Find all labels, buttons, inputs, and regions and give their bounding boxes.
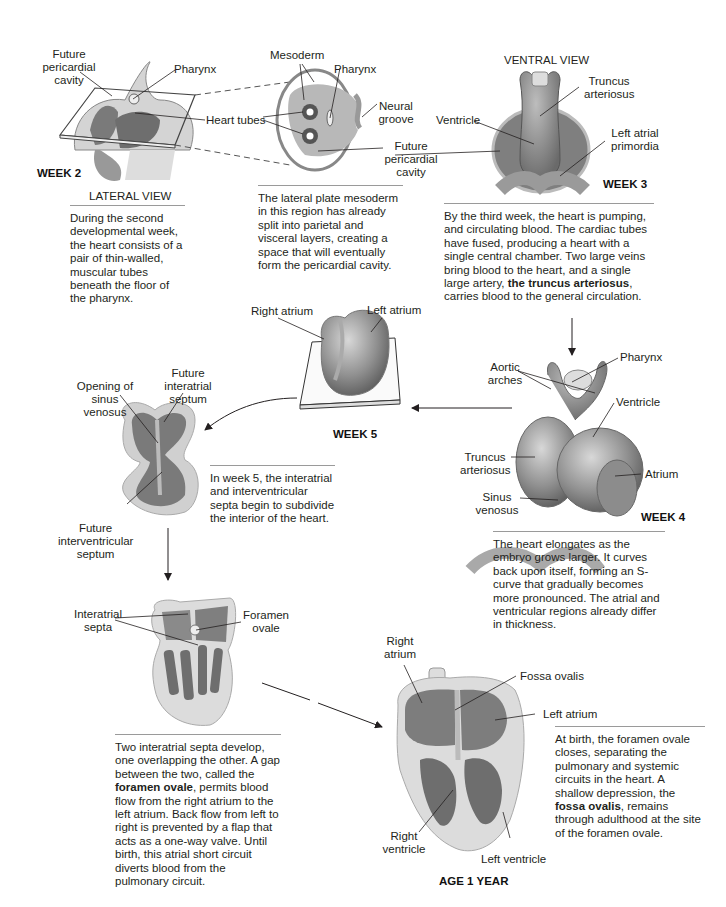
- label-left-atrium-age1: Left atrium: [543, 708, 597, 721]
- label-future-pericardial-cavity-section: Future pericardial cavity: [380, 140, 442, 179]
- view-label-ventral: VENTRAL VIEW: [504, 54, 589, 66]
- label-heart-tubes: Heart tubes: [206, 114, 265, 127]
- stage-label-week5: WEEK 5: [333, 428, 377, 440]
- label-pharynx-week2: Pharynx: [174, 63, 216, 76]
- fetal-heart-illustration: [152, 598, 236, 725]
- week2-section-illustration: [277, 70, 360, 170]
- label-ventricle-week3: Ventricle: [436, 114, 480, 127]
- label-left-ventricle: Left ventricle: [481, 853, 546, 866]
- stage-label-week3: WEEK 3: [603, 178, 647, 190]
- label-atrium-week4: Atrium: [645, 468, 678, 481]
- label-right-atrium-week5: Right atrium: [251, 305, 313, 318]
- arrow-fetal-to-age1: [262, 683, 382, 727]
- age1-heart-illustration: [397, 668, 524, 851]
- label-pharynx-week4: Pharynx: [620, 351, 662, 364]
- stage-label-age1: AGE 1 YEAR: [439, 875, 508, 887]
- label-text: Future pericardial cavity: [34, 48, 104, 87]
- caption-fetal: Two interatrial septa develop, one overl…: [115, 734, 281, 888]
- label-interatrial-septa: Interatrial septa: [72, 608, 124, 634]
- caption-text: Two interatrial septa develop, one overl…: [115, 741, 280, 780]
- caption-bold-term: foramen ovale: [115, 781, 193, 793]
- caption-bold-term: fossa ovalis: [555, 800, 621, 812]
- caption-week3: By the third week, the heart is pumping,…: [444, 203, 654, 304]
- label-future-interventricular-septum: Future interventricular septum: [58, 522, 133, 561]
- caption-bold-term: the truncus arteriosus: [508, 277, 629, 289]
- label-pharynx-section: Pharynx: [334, 63, 376, 76]
- label-future-pericardial-cavity: Future pericardial cavity: [34, 48, 104, 87]
- week5-heart-illustration: [300, 310, 400, 409]
- label-sinus-venosus: Sinus venosus: [475, 491, 519, 517]
- label-ventricle-week4: Ventricle: [616, 396, 660, 409]
- caption-text: At birth, the foramen ovale closes, sepa…: [555, 733, 690, 799]
- label-truncus-arteriosus-week4: Truncus arteriosus: [460, 451, 510, 477]
- label-foramen-ovale: Foramen ovale: [242, 609, 290, 635]
- view-label-lateral: LATERAL VIEW: [89, 190, 171, 202]
- label-right-atrium-age1: Right atrium: [380, 635, 420, 661]
- caption-week5: In week 5, the interatrial and intervent…: [210, 465, 335, 526]
- caption-week4: The heart elongates as the embryo grows …: [493, 531, 665, 632]
- caption-age1: At birth, the foramen ovale closes, sepa…: [555, 726, 705, 840]
- stage-label-week2: WEEK 2: [37, 167, 81, 179]
- week3-heart-illustration: [493, 72, 589, 192]
- label-left-atrium-week5: Left atrium: [367, 304, 421, 317]
- label-aortic-arches: Aortic arches: [485, 361, 525, 387]
- caption-week2: During the second developmental week, th…: [70, 205, 185, 306]
- label-opening-sinus-venosus: Opening of sinus venosus: [70, 380, 140, 419]
- label-mesoderm: Mesoderm: [270, 49, 324, 62]
- label-right-ventricle: Right ventricle: [380, 830, 428, 856]
- stage-label-week4: WEEK 4: [641, 511, 685, 523]
- label-fossa-ovalis: Fossa ovalis: [520, 670, 584, 683]
- label-future-interatrial-septum: Future interatrial septum: [148, 367, 228, 406]
- caption-week2-section: The lateral plate mesoderm in this regio…: [258, 185, 403, 272]
- caption-text: , permits blood flow from the right atri…: [115, 781, 279, 887]
- label-neural-groove: Neural groove: [373, 100, 419, 126]
- label-left-atrial-primordia: Left atrial primordia: [605, 127, 665, 153]
- label-truncus-arteriosus-week3: Truncus arteriosus: [584, 75, 634, 101]
